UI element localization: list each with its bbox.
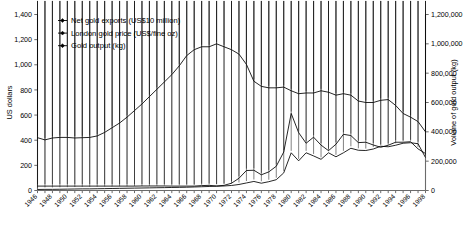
x-axis-tick-label: 1996	[396, 193, 412, 209]
x-axis-tick-label: 1952	[68, 193, 84, 209]
x-axis-tick-label: 1998	[411, 193, 427, 209]
legend-swatch-marker	[61, 31, 65, 35]
x-axis-tick-label: 1950	[53, 193, 69, 209]
x-axis-tick-label: 1960	[127, 193, 143, 209]
right-axis-tick-label: 1,000,000	[431, 40, 463, 48]
x-axis-tick-label: 1982	[291, 193, 307, 209]
legend-item: Net gold exports (US$10 million)	[58, 16, 181, 25]
right-axis-tick-label: 0	[431, 187, 435, 195]
right-axis-title: Volume of gold output (kg)	[449, 59, 458, 145]
x-axis-tick-label: 1978	[262, 193, 278, 209]
x-axis-tick-label: 1954	[83, 193, 99, 209]
x-axis-tick-label: 1994	[381, 193, 397, 209]
x-axis-tick-label: 1984	[306, 193, 322, 209]
x-axis-tick-label: 1980	[277, 193, 293, 209]
x-axis-tick-label: 1970	[202, 193, 218, 209]
right-axis-tick-label: 200,000	[431, 158, 457, 166]
x-axis-tick-label: 1988	[336, 193, 352, 209]
legend-item: London gold price (US$/fine oz)	[58, 29, 178, 38]
left-axis-tick-label: 1,000	[14, 61, 32, 69]
x-axis-tick-label: 1972	[217, 193, 233, 209]
x-axis-tick-label: 1962	[142, 193, 158, 209]
x-axis-tick-label: 1964	[157, 193, 173, 209]
legend-item: Gold output (kg)	[58, 41, 126, 50]
left-axis-tick-label: 1,400	[14, 11, 32, 19]
left-axis-tick-label: 600	[20, 112, 32, 120]
gold-chart: 02004006008001,0001,2001,400US dollars02…	[0, 0, 465, 231]
x-axis-tick-label: 1948	[38, 193, 54, 209]
legend-label: London gold price (US$/fine oz)	[71, 29, 178, 38]
legend-swatch-marker	[61, 19, 65, 23]
left-axis-title: US dollars	[5, 85, 14, 119]
x-axis-tick-label: 1968	[187, 193, 203, 209]
x-axis-tick-label: 1990	[351, 193, 367, 209]
x-axis-tick-label: 1992	[366, 193, 382, 209]
x-axis-tick-label: 1946	[23, 193, 39, 209]
left-axis-tick-label: 400	[20, 137, 32, 145]
left-axis-tick-label: 800	[20, 87, 32, 95]
left-axis-tick-label: 1,200	[14, 36, 32, 44]
right-axis-tick-label: 1,200,000	[431, 11, 463, 19]
legend-label: Net gold exports (US$10 million)	[71, 16, 181, 25]
chart-canvas: 02004006008001,0001,2001,400US dollars02…	[0, 0, 465, 231]
legend-label: Gold output (kg)	[71, 41, 126, 50]
x-axis-tick-label: 1986	[321, 193, 337, 209]
legend-swatch-marker	[61, 44, 65, 48]
x-axis-tick-label: 1958	[112, 193, 128, 209]
x-axis-tick-label: 1966	[172, 193, 188, 209]
x-axis-tick-label: 1974	[232, 193, 248, 209]
x-axis-tick-label: 1956	[97, 193, 113, 209]
left-axis-tick-label: 200	[20, 162, 32, 170]
x-axis-tick-label: 1976	[247, 193, 263, 209]
